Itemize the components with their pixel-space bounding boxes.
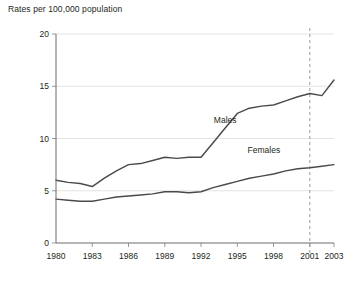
y-axis-ticks-group: 05101520 [40,29,56,248]
y-tick-label-10: 10 [40,134,50,144]
y-tick-label-0: 0 [44,238,49,248]
series-annotations-group: MalesFemales [214,115,280,155]
y-tick-label-5: 5 [44,186,49,196]
y-tick-label-20: 20 [40,29,50,39]
x-tick-label-1995: 1995 [228,251,247,261]
x-tick-label-1989: 1989 [155,251,174,261]
x-tick-label-1992: 1992 [192,251,211,261]
line-chart-plot: 05101520 1980198319861989199219951998200… [0,0,345,281]
chart-container: Rates per 100,000 population 05101520 19… [0,0,345,281]
x-tick-label-1986: 1986 [119,251,138,261]
data-series-group [56,80,334,201]
series-label-males: Males [214,115,237,125]
x-tick-label-2003: 2003 [325,251,344,261]
x-tick-label-1983: 1983 [83,251,102,261]
series-line-males [56,80,334,187]
y-tick-label-15: 15 [40,81,50,91]
gridlines-group [56,34,334,191]
x-tick-label-1998: 1998 [264,251,283,261]
x-tick-label-1980: 1980 [47,251,66,261]
series-label-females: Females [248,145,281,155]
x-axis-ticks-group: 198019831986198919921995199820012003 [47,243,344,261]
